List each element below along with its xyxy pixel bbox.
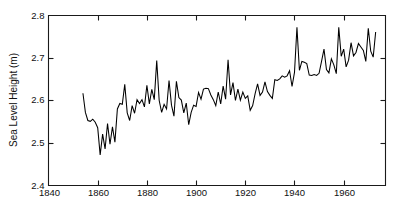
y-tick-label: 2.4 <box>31 180 44 191</box>
x-tick-label: 1960 <box>334 187 355 198</box>
x-tick-label: 1880 <box>137 187 158 198</box>
y-tick-label: 2.8 <box>31 10 44 21</box>
y-tick-label: 2.5 <box>31 137 44 148</box>
chart-background <box>0 0 402 211</box>
y-tick-label: 2.7 <box>31 52 44 63</box>
x-tick-label: 1940 <box>284 187 305 198</box>
y-tick-label: 2.6 <box>31 94 44 105</box>
sea-level-height-figure: 1840186018801900192019401960 2.42.52.62.… <box>0 0 402 211</box>
y-axis-title: Sea Level Height (m) <box>8 53 19 147</box>
x-tick-label: 1860 <box>88 187 109 198</box>
sea-level-height-chart: 1840186018801900192019401960 2.42.52.62.… <box>0 0 402 211</box>
x-tick-label: 1920 <box>235 187 256 198</box>
x-tick-label: 1900 <box>186 187 207 198</box>
